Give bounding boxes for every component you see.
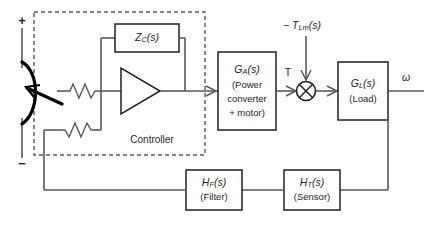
block-ga-line-1: (Power: [232, 79, 262, 90]
block-gl-main: G: [351, 77, 359, 89]
block-ga-tail: (s): [247, 63, 259, 75]
block-ht-label: HT(s): [300, 176, 324, 190]
block-ga-label: GA(s): [234, 63, 259, 77]
diagram-svg: + − ZC(s) Controller GA(s) (Power conver…: [0, 0, 430, 228]
source-plus-label: +: [18, 13, 26, 28]
block-ht-tail: (s): [312, 176, 324, 188]
feedback-resistor-symbol: [58, 123, 95, 137]
signal-output-label: ω: [402, 71, 410, 83]
block-ga-line-3: + motor): [229, 107, 265, 118]
signal-torque-label: T: [285, 66, 292, 78]
block-hf-tail: (s): [214, 176, 226, 188]
signal-disturbance-sub: Lm: [298, 23, 308, 32]
signal-disturbance-label: − TLm(s): [283, 19, 321, 33]
source-minus-label: −: [18, 156, 26, 171]
block-gl: [338, 62, 388, 120]
block-ht-line-1: (Sensor): [294, 191, 330, 202]
signal-disturbance-prefix: −: [283, 19, 292, 31]
block-diagram-canvas: + − ZC(s) Controller GA(s) (Power conver…: [0, 0, 430, 228]
block-ga-line-2: converter: [227, 93, 267, 104]
block-gl-line-1: (Load): [349, 93, 376, 104]
signal-disturbance-tail: (s): [309, 19, 321, 31]
op-amp-triangle: [121, 68, 160, 114]
block-zc-label: ZC(s): [134, 31, 159, 45]
block-hf-label: HF(s): [202, 176, 226, 190]
input-resistor-symbol: [66, 84, 100, 98]
block-gl-tail: (s): [363, 77, 375, 89]
controller-label: Controller: [130, 134, 174, 145]
block-hf-line-1: (Filter): [200, 191, 227, 202]
block-zc-tail: (s): [147, 31, 159, 43]
block-gl-label: GL(s): [351, 77, 376, 91]
block-ga-main: G: [234, 63, 242, 75]
